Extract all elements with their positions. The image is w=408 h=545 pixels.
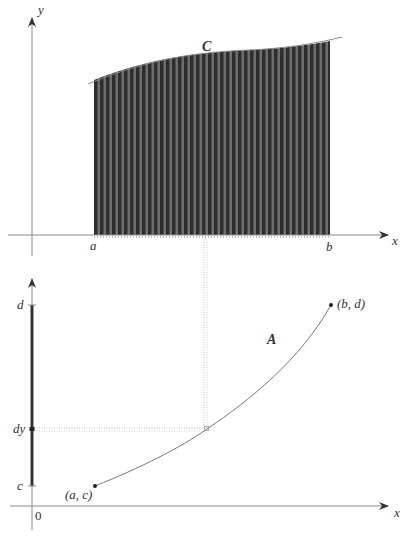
curve-a <box>95 305 331 486</box>
diagram-figure: y x C a b x 0 A d c dy (a, <box>0 0 408 545</box>
dy-marker <box>30 427 35 431</box>
y-c-label: c <box>17 478 23 493</box>
bound-a-label: a <box>90 238 97 253</box>
shaded-region-c <box>94 41 330 235</box>
dy-label: dy <box>13 421 26 436</box>
start-point <box>93 484 97 488</box>
end-point <box>329 303 333 307</box>
top-y-axis-label: y <box>36 2 44 17</box>
start-point-label: (a, c) <box>65 487 92 502</box>
region-c-label: C <box>202 39 212 54</box>
y-d-label: d <box>17 297 24 312</box>
bottom-x-axis-label: x <box>393 505 400 520</box>
bottom-plot: x 0 A d c dy (a, c) (b, d) <box>10 279 400 530</box>
top-x-axis-label: x <box>391 233 398 248</box>
origin-label: 0 <box>35 508 42 523</box>
end-point-label: (b, d) <box>337 296 365 311</box>
top-plot: y x C a b <box>8 2 398 256</box>
curve-a-label: A <box>266 332 276 347</box>
guide-lines <box>34 237 207 431</box>
bound-b-label: b <box>326 239 333 254</box>
